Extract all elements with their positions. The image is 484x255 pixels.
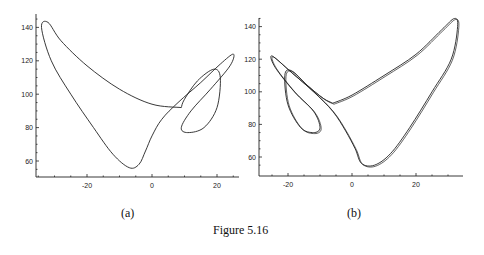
figure-caption: Figure 5.16 — [213, 223, 268, 238]
y-tick-label: 80 — [248, 121, 256, 128]
y-tick-label: 100 — [244, 88, 256, 95]
panel-b-label: (b) — [347, 206, 361, 221]
panel-b-ticks: -200206080100120140 — [244, 18, 448, 188]
panel-b-trajectory — [271, 18, 458, 166]
y-tick-label: 140 — [244, 23, 256, 30]
panel-a-trajectory — [41, 21, 234, 168]
panel-a-axes — [36, 14, 239, 177]
x-tick-label: -20 — [283, 181, 293, 188]
figure-canvas: -200206080100120140 -200206080100120140 — [0, 0, 484, 255]
x-tick-label: 0 — [150, 182, 154, 189]
y-tick-label: 80 — [25, 124, 33, 131]
panel-a-ticks: -200206080100120140 — [21, 19, 233, 189]
x-tick-label: 0 — [350, 181, 354, 188]
x-tick-label: 20 — [213, 182, 221, 189]
y-tick-label: 140 — [21, 24, 33, 31]
y-tick-label: 60 — [248, 154, 256, 161]
y-tick-label: 60 — [25, 158, 33, 165]
y-tick-label: 120 — [21, 57, 33, 64]
x-tick-label: -20 — [82, 182, 92, 189]
x-tick-label: 20 — [412, 181, 420, 188]
y-tick-label: 100 — [21, 91, 33, 98]
y-tick-label: 120 — [244, 56, 256, 63]
panel-a-label: (a) — [121, 206, 134, 221]
